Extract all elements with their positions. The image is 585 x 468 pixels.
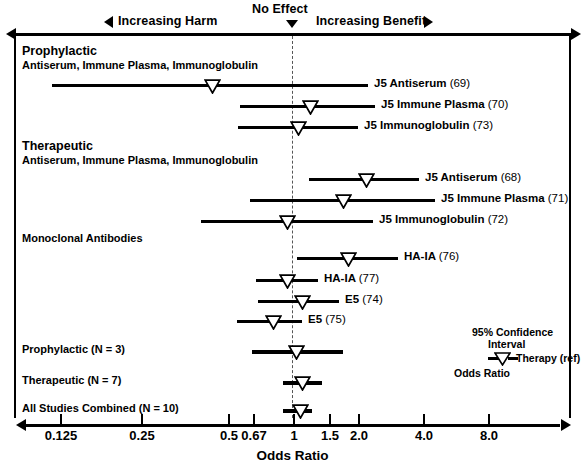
x-axis-tick-label: 1.5 [321,428,339,443]
x-axis-tick [141,414,143,424]
x-axis-tick [358,414,360,424]
study-row-label: J5 Immunoglobulin (72) [379,213,508,225]
study-row-label: J5 Antiserum (69) [374,77,470,89]
study-reference: (77) [359,272,379,284]
study-name: HA-IA [324,272,356,284]
x-axis-tick [253,414,255,424]
study-reference: (74) [362,293,382,305]
odds-ratio-marker-icon [294,295,311,309]
study-name: J5 Immune Plasma [381,98,485,110]
no-effect-label: No Effect [252,2,308,16]
study-reference: (68) [501,171,521,183]
odds-ratio-marker-icon [265,315,282,329]
x-axis-tick-label: 4.0 [415,428,433,443]
forest-plot-figure: Increasing Harm No Effect Increasing Ben… [0,0,585,468]
group-heading-prophylactic: Prophylactic [22,44,97,58]
summary-row-label: Prophylactic (N = 3) [22,343,125,355]
odds-ratio-marker-icon [279,274,296,288]
summary-odds-ratio-marker-icon [294,376,311,390]
x-axis-tick-label: 2.0 [350,428,368,443]
study-name: E5 [308,313,322,325]
triangle-down-icon [286,20,298,28]
study-row-label: HA-IA (76) [404,250,459,262]
study-name: HA-IA [404,250,436,262]
increasing-benefit-label: Increasing Benefit [316,14,426,28]
summary-row-label: All Studies Combined (N = 10) [22,402,179,414]
legend-ci-line2: Interval [488,338,525,350]
odds-ratio-marker-icon [279,215,296,229]
study-name: J5 Immunoglobulin [379,213,484,225]
x-axis-tick [228,414,230,424]
study-row-label: J5 Immunoglobulin (73) [364,119,493,131]
odds-ratio-marker-icon [340,252,357,266]
study-name: J5 Antiserum [374,77,446,89]
study-row-label: J5 Immune Plasma (70) [381,98,508,110]
study-row-label: HA-IA (77) [324,272,379,284]
x-axis-tick [329,414,331,424]
x-axis-tick-label: 0.67 [241,428,266,443]
increasing-harm-label: Increasing Harm [118,14,217,28]
legend-odds-ratio: Odds Ratio [454,367,510,379]
study-reference: (70) [488,98,508,110]
odds-ratio-marker-icon [290,121,307,135]
study-name: J5 Immune Plasma [441,192,545,204]
group-heading-monoclonal-antibodies: Monoclonal Antibodies [22,232,143,244]
summary-odds-ratio-marker-icon [288,345,305,359]
x-axis-tick [60,414,62,424]
study-reference: (73) [473,119,493,131]
study-name: E5 [345,293,359,305]
legend: 95% Confidence Interval Therapy (ref) Od… [436,326,581,382]
study-row-label: E5 (75) [308,313,346,325]
x-axis-tick-label: 0.5 [220,428,238,443]
odds-ratio-marker-icon [302,100,319,114]
odds-ratio-marker-icon [358,173,375,187]
odds-ratio-marker-icon [335,194,352,208]
x-axis-tick-label: 0.25 [129,428,154,443]
group-subheading-prophylactic: Antiserum, Immune Plasma, Immunoglobulin [22,59,258,71]
odds-ratio-marker-icon [204,79,221,93]
study-row-label: E5 (74) [345,293,383,305]
x-axis-tick [293,414,295,424]
left-border-rule [14,33,16,418]
study-name: J5 Immunoglobulin [364,119,469,131]
x-axis-tick-label: 8.0 [480,428,498,443]
study-reference: (75) [325,313,345,325]
legend-therapy-ref: Therapy (ref) [516,352,580,364]
x-axis-left-arrow-icon [16,419,26,431]
x-axis-right-arrow-icon [561,419,571,431]
study-row-label: J5 Immune Plasma (71) [441,192,568,204]
x-axis-title: Odds Ratio [0,448,585,463]
summary-row-label: Therapeutic (N = 7) [22,374,121,386]
study-reference: (72) [488,213,508,225]
study-name: J5 Antiserum [425,171,497,183]
triangle-right-icon [424,16,433,28]
group-heading-therapeutic: Therapeutic [22,139,93,153]
study-reference: (76) [439,250,459,262]
top-axis-right-arrow-icon [571,28,581,40]
study-reference: (71) [548,192,568,204]
x-axis-tick-label: 0.125 [45,428,78,443]
study-row-label: J5 Antiserum (68) [425,171,521,183]
study-reference: (69) [450,77,470,89]
x-axis-tick-label: 1 [290,428,297,443]
x-axis-rule [26,424,560,427]
legend-ci-line1: 95% Confidence [472,326,553,338]
triangle-left-icon [104,16,113,28]
x-axis-tick [488,414,490,424]
group-subheading-therapeutic: Antiserum, Immune Plasma, Immunoglobulin [22,154,258,166]
x-axis-tick [423,414,425,424]
